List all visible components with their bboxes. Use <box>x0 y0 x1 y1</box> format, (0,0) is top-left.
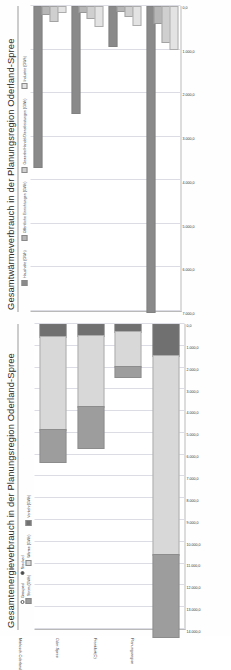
x-tick-label: 5.000,0 <box>182 225 194 229</box>
chart-waermeverbrauch: Gesamtwärmeverbrauch in der Planungsregi… <box>0 0 231 318</box>
bar-segment[interactable] <box>71 6 80 114</box>
x-axis-ticks: 14.000,013.000,012.000,011.000,010.000,0… <box>185 324 211 630</box>
x-tick-label: 6.000,0 <box>182 268 194 272</box>
bar-segment[interactable] <box>152 324 179 357</box>
category-label: Märkisch-Oderland <box>17 638 21 670</box>
legend-label: Verkehr(GWh) <box>26 495 30 518</box>
x-tick-label: 0,0 <box>182 6 187 10</box>
x-tick-label: 5.000,0 <box>186 433 198 437</box>
category-label: Planungsregion <box>129 638 133 664</box>
x-tick-label: 0,0 <box>186 324 191 328</box>
legend-label: Industrie (GWh) <box>22 56 26 81</box>
legend-label: Öffentliche Einrichtungen (GWh) <box>22 182 26 234</box>
chart-title-energieverbrauch: Gesamtenergieverbrauch in der Planungsre… <box>4 324 15 630</box>
x-tick-label: 1.000,0 <box>186 346 198 350</box>
legend-item[interactable]: Wärme (GWh) <box>25 535 31 566</box>
legend-item[interactable]: Gewerbe/Handel/Dienstleistungen (GWh) <box>21 98 27 172</box>
radio-stacked[interactable]: Stacked <box>20 555 24 575</box>
legend-swatch-icon <box>21 280 27 286</box>
chart-panel-waermeverbrauch: Gesamtwärmeverbrauch in der Planungsregi… <box>0 0 231 318</box>
bar-group[interactable] <box>34 324 72 629</box>
x-tick-label: 4.000,0 <box>186 411 198 415</box>
x-tick-label: 13.000,0 <box>186 608 200 612</box>
x-tick-label: 12.000,0 <box>186 586 200 590</box>
bar-segment[interactable] <box>77 335 104 408</box>
bars-container <box>34 324 184 629</box>
radio-label: Stacked <box>20 555 24 569</box>
bar-group[interactable] <box>72 324 110 629</box>
x-axis-ticks: 7.000,06.000,05.000,04.000,03.000,02.000… <box>181 6 207 312</box>
legend-item[interactable]: Strom (GWh) <box>25 575 31 604</box>
bar-segment[interactable] <box>33 6 42 168</box>
bar-group[interactable] <box>105 6 143 311</box>
bar-segment[interactable] <box>152 355 179 556</box>
legend-swatch-icon <box>21 235 27 241</box>
legend-energieverbrauch: Strom (GWh) Wärme (GWh) Verkehr(GWh) <box>24 324 32 630</box>
legend-waermeverbrauch: Haushalte (GWh) Öffentliche Einrichtunge… <box>18 6 28 312</box>
bar-segment[interactable] <box>152 554 179 639</box>
x-tick-label: 9.000,0 <box>186 521 198 525</box>
x-tick-label: 2.000,0 <box>182 93 194 97</box>
bar-segment[interactable] <box>169 6 178 50</box>
plot-area-waermeverbrauch <box>30 6 181 312</box>
category-label: Frankfurt(O) <box>92 638 96 659</box>
chart-mode-radio-group[interactable]: Grouped Stacked <box>18 324 24 630</box>
legend-item[interactable]: Verkehr(GWh) <box>25 495 31 526</box>
bar-segment[interactable] <box>77 406 104 449</box>
bar-group[interactable] <box>143 6 181 311</box>
x-tick-label: 8.000,0 <box>186 499 198 503</box>
legend-item[interactable]: Öffentliche Einrichtungen (GWh) <box>21 182 27 242</box>
x-tick-label: 7.000,0 <box>186 477 198 481</box>
x-tick-label: 3.000,0 <box>186 390 198 394</box>
radio-label: Grouped <box>20 583 24 598</box>
x-tick-label: 14.000,0 <box>186 630 200 634</box>
bars-container <box>30 6 180 311</box>
legend-label: Gewerbe/Handel/Dienstleistungen (GWh) <box>22 98 26 164</box>
bar-segment[interactable] <box>39 336 66 431</box>
x-tick-label: 4.000,0 <box>182 181 194 185</box>
bar-group[interactable] <box>30 6 68 311</box>
x-tick-label: 10.000,0 <box>186 543 200 547</box>
legend-swatch-icon <box>25 560 31 566</box>
legend-swatch-icon <box>25 520 31 526</box>
chart-panel-energieverbrauch: Gesamtenergieverbrauch in der Planungsre… <box>0 318 231 636</box>
legend-item[interactable]: Haushalte (GWh) <box>21 250 27 286</box>
legend-swatch-icon <box>21 167 27 173</box>
x-tick-label: 6.000,0 <box>186 455 198 459</box>
legend-item[interactable]: Industrie (GWh) <box>21 56 27 89</box>
category-label: Oder-Spree <box>54 638 58 658</box>
legend-swatch-icon <box>25 598 31 604</box>
bar-group[interactable] <box>109 324 147 629</box>
bar-segment[interactable] <box>114 366 141 377</box>
chart-energieverbrauch: Gesamtenergieverbrauch in der Planungsre… <box>0 318 231 636</box>
plot-area-energieverbrauch <box>34 324 185 630</box>
x-tick-label: 2.000,0 <box>186 368 198 372</box>
radio-unselected-icon <box>20 600 24 604</box>
bar-segment[interactable] <box>114 331 141 368</box>
bar-segment[interactable] <box>57 6 66 13</box>
x-tick-label: 11.000,0 <box>186 564 200 568</box>
x-tick-label: 1.000,0 <box>182 50 194 54</box>
bar-segment[interactable] <box>146 6 155 313</box>
legend-swatch-icon <box>21 83 27 89</box>
bar-segment[interactable] <box>132 6 141 26</box>
bar-segment[interactable] <box>39 429 66 463</box>
bar-segment[interactable] <box>94 6 103 27</box>
bar-group[interactable] <box>68 6 106 311</box>
legend-label: Wärme (GWh) <box>26 535 30 558</box>
radio-grouped[interactable]: Grouped <box>20 583 24 604</box>
x-tick-label: 7.000,0 <box>182 312 194 316</box>
radio-selected-icon <box>20 571 24 575</box>
legend-label: Haushalte (GWh) <box>22 250 26 278</box>
bar-group[interactable] <box>147 324 185 629</box>
chart-title-waermeverbrauch: Gesamtwärmeverbrauch in der Planungsregi… <box>4 6 15 312</box>
legend-label: Strom (GWh) <box>26 575 30 596</box>
bar-segment[interactable] <box>108 6 117 47</box>
x-tick-label: 3.000,0 <box>182 137 194 141</box>
